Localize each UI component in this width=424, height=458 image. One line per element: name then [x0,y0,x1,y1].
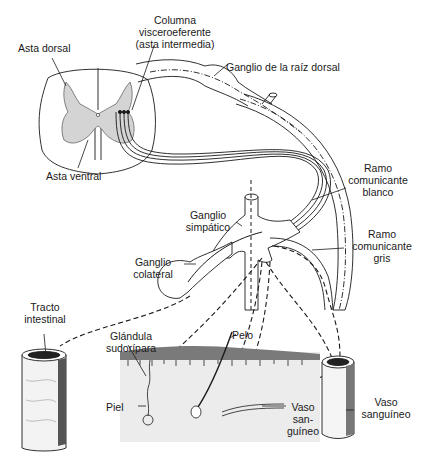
label-line: Ramo [346,228,418,240]
label-line: Ganglio [178,209,238,221]
label-glandula-sudoripara: Glándula sudorípara [98,330,164,354]
label-line: gris [346,252,418,264]
label-columna-visceroeferente: Columna visceroeferente (asta intermedia… [126,14,224,50]
label-line: Glándula [98,330,164,342]
label-piel: Piel [106,401,124,413]
blood-vessel [322,356,354,439]
label-ganglio-simpatico: Ganglio simpático [178,209,238,233]
label-ramo-comunicante-blanco: Ramo comunicante blanco [342,162,414,198]
label-line: Vaso [354,396,418,408]
label-line: Ganglio [124,256,182,268]
label-line: Tracto [14,301,76,313]
label-asta-ventral: Asta ventral [46,170,101,182]
label-line: (asta intermedia) [126,38,224,50]
intestinal-tract [22,349,66,451]
label-vaso-sanguineo-small: Vaso san- guíneo [286,401,320,437]
label-line: colateral [124,268,182,280]
label-line: comunicante [346,240,418,252]
label-line: sanguíneo [354,408,418,420]
label-vaso-sanguineo-large: Vaso sanguíneo [354,396,418,420]
label-line: Vaso [286,401,320,413]
label-line: san- [286,413,320,425]
label-line: Columna [126,14,224,26]
label-line: guíneo [286,425,320,437]
label-line: visceroeferente [126,26,224,38]
label-pelo: Pelo [232,329,253,341]
label-ramo-comunicante-gris: Ramo comunicante gris [346,228,418,264]
label-line: blanco [342,186,414,198]
label-ganglio-raiz-dorsal: Ganglio de la raíz dorsal [226,61,340,73]
label-tracto-intestinal: Tracto intestinal [14,301,76,325]
label-line: sudorípara [98,342,164,354]
label-asta-dorsal: Asta dorsal [18,42,71,54]
label-line: simpático [178,221,238,233]
label-line: intestinal [14,313,76,325]
label-ganglio-colateral: Ganglio colateral [124,256,182,280]
label-line: Ramo [342,162,414,174]
label-line: comunicante [342,174,414,186]
gray-ramus [270,238,333,310]
